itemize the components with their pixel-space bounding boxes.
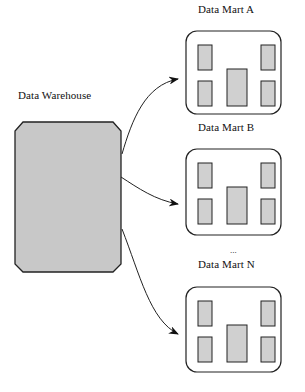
arrow-to-data-mart-n [122,229,178,334]
data-mart-a-shape [186,31,281,114]
data-warehouse-shape [15,122,121,272]
diagram-canvas [0,0,305,392]
data-mart-n-shape [186,287,281,372]
arrow-to-data-mart-a [122,79,178,154]
arrow-to-data-mart-b [121,177,178,204]
data-mart-b-shape [186,149,281,235]
